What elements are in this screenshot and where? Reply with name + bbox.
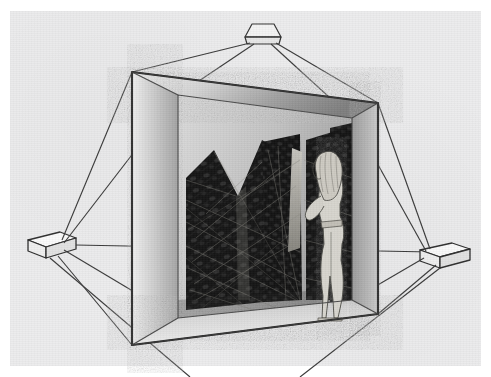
right-anchor-block xyxy=(420,243,470,268)
top-anchor-block xyxy=(245,24,281,44)
cable-left-to-fbl xyxy=(58,256,132,345)
cable-right-to-fbr xyxy=(378,265,436,314)
artwork-canvas xyxy=(0,0,491,377)
cube-left-inner-wall xyxy=(132,72,178,345)
cable-right-to-ftr xyxy=(378,103,430,249)
cable-top-to-ftl xyxy=(132,43,250,72)
open-cube xyxy=(132,72,378,345)
illustration-scene xyxy=(0,0,491,377)
cube-right-inner-wall xyxy=(352,103,378,314)
cable-left-to-ftl xyxy=(62,72,132,240)
